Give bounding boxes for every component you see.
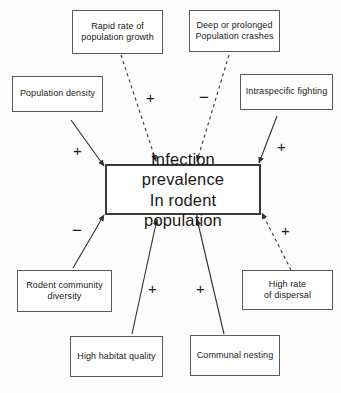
edge-rapid-rate: [121, 55, 156, 161]
node-rapid-rate-label: Rapid rate of population growth: [78, 21, 157, 44]
node-communal-nesting[interactable]: Communal nesting: [190, 335, 280, 376]
edge-deep-crashes: [197, 55, 229, 161]
node-rapid-rate[interactable]: Rapid rate of population growth: [72, 10, 163, 54]
sign-population-density: +: [73, 143, 82, 158]
sign-high-dispersal: +: [281, 223, 290, 238]
edge-intraspecific-fighting: [259, 116, 277, 163]
sign-intraspecific-fighting: +: [277, 139, 286, 154]
node-central-label: Infection prevalence In rodent populatio…: [107, 149, 259, 230]
node-intraspecific-fighting[interactable]: Intraspecific fighting: [240, 74, 333, 110]
node-rodent-diversity-label: Rodent community diversity: [23, 280, 105, 303]
node-habitat-quality-label: High habitat quality: [74, 351, 158, 362]
node-habitat-quality[interactable]: High habitat quality: [70, 336, 163, 377]
node-high-dispersal[interactable]: High rate of dispersal: [242, 270, 333, 310]
node-central-infection-prevalence[interactable]: Infection prevalence In rodent populatio…: [105, 164, 261, 215]
sign-habitat-quality: +: [148, 281, 157, 296]
node-intraspecific-fighting-label: Intraspecific fighting: [243, 86, 331, 97]
node-communal-nesting-label: Communal nesting: [194, 350, 276, 361]
sign-rapid-rate: +: [146, 90, 155, 105]
node-population-density[interactable]: Population density: [12, 76, 103, 112]
diagram-canvas: Rapid rate of population growth Deep or …: [0, 0, 341, 393]
node-deep-crashes-label: Deep or prolonged Population crashes: [192, 20, 276, 43]
edge-habitat-quality: [132, 219, 157, 334]
node-population-density-label: Population density: [17, 88, 98, 99]
edge-communal-nesting: [197, 219, 224, 334]
node-rodent-diversity[interactable]: Rodent community diversity: [17, 270, 112, 312]
node-deep-crashes[interactable]: Deep or prolonged Population crashes: [189, 10, 280, 52]
sign-communal-nesting: +: [196, 281, 205, 296]
sign-deep-crashes: −: [199, 89, 209, 106]
node-high-dispersal-label: High rate of dispersal: [261, 279, 314, 302]
sign-rodent-diversity: −: [72, 222, 82, 239]
